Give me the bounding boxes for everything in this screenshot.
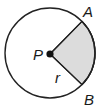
label-center-p: P — [33, 46, 43, 63]
label-point-b: B — [84, 91, 94, 108]
circle-sector-diagram: A B P r — [0, 0, 106, 112]
label-point-a: A — [82, 3, 93, 20]
center-point-dot — [46, 50, 53, 57]
